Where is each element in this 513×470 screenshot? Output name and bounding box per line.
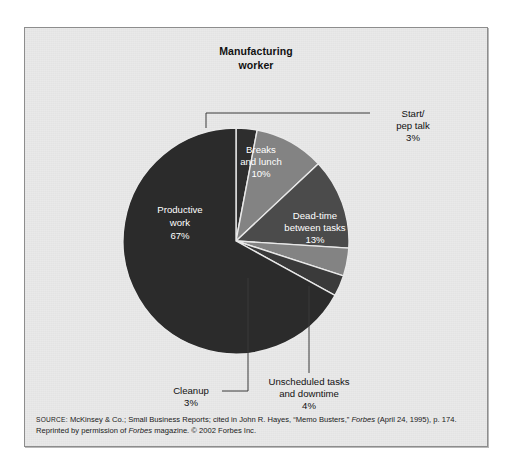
callout-cleanup-line1: Cleanup [173, 385, 209, 396]
callout-start-value: 3% [406, 132, 420, 143]
slice-label-deadtime-line2: between tasks [284, 222, 346, 233]
callout-unscheduled-line1: Unscheduled tasks [268, 376, 349, 387]
slice-label-deadtime-line1: Dead-time [293, 210, 337, 221]
slice-label-deadtime-value: 13% [305, 234, 325, 245]
source-text-part-3: magazine. © 2002 Forbes Inc. [152, 426, 256, 435]
slice-label-breaks-line2: and lunch [240, 156, 282, 167]
leader-line-start-pep-talk [206, 113, 370, 128]
callout-unscheduled-value: 4% [302, 400, 316, 411]
source-italic-forbes-1: Forbes [351, 415, 375, 424]
callout-cleanup-value: 3% [184, 397, 198, 408]
callout-label-start-pep-talk: Start/ pep talk 3% [396, 108, 430, 143]
slice-label-breaks-line1: Breaks [246, 144, 276, 155]
slice-label-productive-value: 67% [170, 230, 190, 241]
callout-unscheduled-line2: and downtime [279, 388, 339, 399]
pie-chart-area: Breaks and lunch 10% Dead-time between t… [25, 28, 487, 423]
slice-label-breaks-value: 10% [251, 168, 271, 179]
source-prefix: SOURCE: [36, 416, 68, 423]
pie-chart-svg: Breaks and lunch 10% Dead-time between t… [25, 28, 487, 423]
source-text-part-1: McKinsey & Co.; Small Business Reports; … [68, 415, 352, 424]
callout-label-unscheduled-tasks: Unscheduled tasks and downtime 4% [268, 376, 349, 411]
slice-label-productive-line1: Productive [157, 204, 202, 215]
slice-label-productive-line2: work [169, 217, 190, 228]
figure-root: Manufacturing worker Breaks and lunch 10… [0, 0, 513, 470]
source-note: SOURCE: McKinsey & Co.; Small Business R… [36, 414, 475, 436]
figure-panel: Manufacturing worker Breaks and lunch 10… [24, 27, 488, 447]
callout-start-line1: Start/ [402, 108, 425, 119]
callout-label-cleanup: Cleanup 3% [173, 385, 209, 408]
callout-start-line2: pep talk [396, 120, 430, 131]
source-italic-forbes-2: Forbes [128, 426, 152, 435]
